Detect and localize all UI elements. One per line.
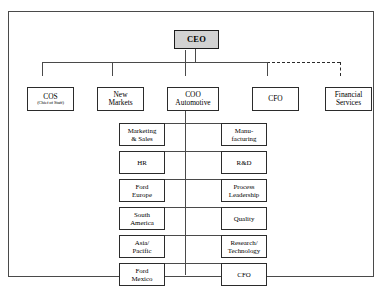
connector-drop-new-markets bbox=[112, 62, 113, 76]
node-south-america-line1: South bbox=[134, 211, 150, 218]
node-ceo-label: CEO bbox=[187, 35, 206, 44]
node-quality[interactable]: Quality bbox=[221, 207, 267, 230]
connector-coo-spine bbox=[185, 100, 186, 275]
node-ford-europe-line1: Ford bbox=[135, 183, 148, 190]
connector-rung-row-6 bbox=[165, 263, 221, 264]
node-ceo[interactable]: CEO bbox=[174, 30, 219, 49]
connector-drop-financial-services bbox=[340, 62, 341, 76]
node-new-markets-label-line2: Markets bbox=[108, 99, 132, 107]
node-coo-automotive-label-line2: Automotive bbox=[175, 99, 210, 107]
node-marketing-sales-line2: & Sales bbox=[131, 135, 153, 142]
node-rd[interactable]: R&D bbox=[221, 151, 267, 174]
node-process-leadership-line1: Process bbox=[233, 183, 254, 190]
connector-ceo-to-bus bbox=[195, 49, 196, 62]
node-south-america-line2: America bbox=[130, 219, 154, 226]
connector-drop-coo bbox=[185, 50, 186, 76]
node-ford-europe[interactable]: Ford Europe bbox=[119, 179, 165, 202]
node-asia-pacific[interactable]: Asia/ Pacific bbox=[119, 235, 165, 258]
connector-bus-dashed-extension bbox=[267, 62, 340, 63]
connector-bus-horizontal bbox=[42, 62, 267, 63]
node-manufacturing-line1: Manu- bbox=[235, 127, 253, 134]
node-research-technology[interactable]: Research/ Technology bbox=[221, 235, 267, 258]
node-ford-mexico[interactable]: Ford Mexico bbox=[119, 263, 165, 286]
node-ford-europe-line2: Europe bbox=[132, 191, 152, 198]
node-manufacturing-line2: facturing bbox=[232, 135, 257, 142]
node-coo-automotive[interactable]: COO Automotive bbox=[167, 87, 219, 111]
node-marketing-sales-line1: Marketing bbox=[128, 127, 157, 134]
node-process-leadership-line2: Leadership bbox=[229, 191, 260, 198]
connector-rung-row-2 bbox=[165, 151, 221, 152]
connector-rung-row-1 bbox=[165, 123, 221, 124]
node-asia-pacific-line1: Asia/ bbox=[135, 239, 150, 246]
org-chart-frame: CEO COS (Chief of Staff) New Markets COO… bbox=[8, 11, 374, 277]
node-research-technology-line1: Research/ bbox=[230, 239, 257, 246]
node-cos-sublabel: (Chief of Staff) bbox=[37, 101, 64, 106]
node-manufacturing[interactable]: Manu- facturing bbox=[221, 123, 267, 146]
node-marketing-sales[interactable]: Marketing & Sales bbox=[119, 123, 165, 146]
node-financial-services-label-line2: Services bbox=[336, 99, 361, 107]
node-ford-mexico-line2: Mexico bbox=[131, 275, 152, 282]
node-cos[interactable]: COS (Chief of Staff) bbox=[27, 87, 74, 111]
connector-rung-row-4 bbox=[165, 207, 221, 208]
connector-drop-cfo bbox=[267, 62, 268, 76]
node-financial-services[interactable]: Financial Services bbox=[325, 87, 372, 111]
node-process-leadership[interactable]: Process Leadership bbox=[221, 179, 267, 202]
node-cfo-automotive-line1: CFO bbox=[237, 271, 250, 278]
node-south-america[interactable]: South America bbox=[119, 207, 165, 230]
node-cfo-automotive[interactable]: CFO bbox=[221, 263, 267, 286]
node-hr[interactable]: HR bbox=[119, 151, 165, 174]
connector-rung-row-3 bbox=[165, 179, 221, 180]
node-cfo-label: CFO bbox=[268, 95, 282, 103]
node-ford-mexico-line1: Ford bbox=[135, 267, 148, 274]
connector-drop-cos bbox=[42, 62, 43, 76]
node-cfo[interactable]: CFO bbox=[252, 87, 299, 111]
node-hr-line1: HR bbox=[137, 159, 147, 166]
node-quality-line1: Quality bbox=[234, 215, 255, 222]
node-new-markets[interactable]: New Markets bbox=[97, 87, 144, 111]
node-rd-line1: R&D bbox=[237, 159, 252, 166]
connector-rung-row-5 bbox=[165, 235, 221, 236]
node-asia-pacific-line2: Pacific bbox=[132, 247, 151, 254]
node-research-technology-line2: Technology bbox=[228, 247, 260, 254]
